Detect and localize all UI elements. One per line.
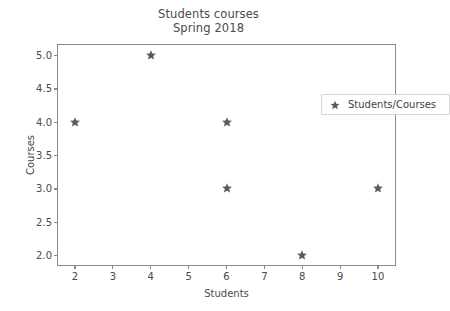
- scatter-point: [145, 50, 156, 61]
- y-tick-label: 2.0: [36, 250, 52, 261]
- chart-legend[interactable]: Students/Courses: [321, 94, 450, 115]
- x-tick-label: 6: [223, 271, 229, 282]
- x-tick-label: 7: [261, 271, 267, 282]
- y-tick-mark: [54, 88, 58, 89]
- x-tick-mark: [226, 265, 227, 269]
- scatter-point: [70, 116, 81, 127]
- y-tick-label: 3.5: [36, 150, 52, 161]
- x-tick-mark: [150, 265, 151, 269]
- x-axis-label: Students: [57, 288, 396, 299]
- x-tick-label: 4: [148, 271, 154, 282]
- x-tick-label: 3: [110, 271, 116, 282]
- x-tick-mark: [74, 265, 75, 269]
- y-tick-mark: [54, 222, 58, 223]
- chart-title-line2: Spring 2018: [0, 21, 417, 35]
- x-tick-mark: [340, 265, 341, 269]
- x-tick-mark: [112, 265, 113, 269]
- y-tick-label: 5.0: [36, 50, 52, 61]
- x-tick-mark: [377, 265, 378, 269]
- y-tick-label: 4.5: [36, 83, 52, 94]
- y-tick-mark: [54, 188, 58, 189]
- y-tick-mark: [54, 55, 58, 56]
- scatter-point: [372, 183, 383, 194]
- x-tick-mark: [188, 265, 189, 269]
- scatter-point: [221, 183, 232, 194]
- x-tick-label: 5: [185, 271, 191, 282]
- chart-title-line1: Students courses: [158, 7, 259, 21]
- y-tick-mark: [54, 155, 58, 156]
- x-tick-label: 9: [337, 271, 343, 282]
- y-tick-mark: [54, 255, 58, 256]
- scatter-point: [221, 116, 232, 127]
- x-tick-mark: [302, 265, 303, 269]
- x-tick-label: 2: [72, 271, 78, 282]
- legend-label: Students/Courses: [348, 99, 436, 110]
- y-tick-label: 2.5: [36, 216, 52, 227]
- chart-title: Students courses Spring 2018: [0, 7, 417, 35]
- x-tick-label: 8: [299, 271, 305, 282]
- y-axis-label: Courses: [25, 135, 36, 175]
- star-icon: [322, 95, 348, 114]
- y-tick-mark: [54, 122, 58, 123]
- y-tick-label: 3.0: [36, 183, 52, 194]
- y-tick-label: 4.0: [36, 116, 52, 127]
- scatter-point: [297, 250, 308, 261]
- x-tick-label: 10: [372, 271, 385, 282]
- plot-area: Students/Courses 2.02.53.03.54.04.55.023…: [57, 44, 396, 266]
- x-tick-mark: [264, 265, 265, 269]
